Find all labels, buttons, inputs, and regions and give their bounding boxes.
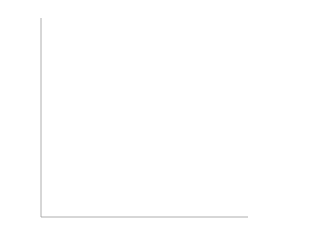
pie-chart: [108, 31, 216, 139]
